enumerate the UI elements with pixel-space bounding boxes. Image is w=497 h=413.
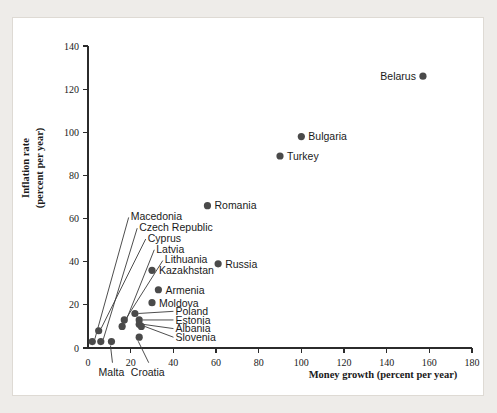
marker-bulgaria bbox=[298, 133, 305, 140]
leader-cyprus bbox=[101, 239, 145, 328]
label-romania: Romania bbox=[214, 199, 256, 211]
y-tick-label: 120 bbox=[64, 84, 79, 95]
marker-latvia bbox=[119, 323, 126, 330]
label-kazakhstan: Kazakhstan bbox=[159, 264, 214, 276]
y-axis-ticks: 020406080100120140 bbox=[64, 41, 88, 354]
label-malta: Malta bbox=[99, 366, 125, 378]
label-armenia: Armenia bbox=[165, 284, 204, 296]
x-axis-title: Money growth (percent per year) bbox=[309, 369, 458, 381]
y-tick-label: 40 bbox=[69, 256, 79, 267]
marker-moldova bbox=[148, 299, 155, 306]
leader-czech-republic bbox=[103, 228, 137, 339]
x-tick-label: 140 bbox=[379, 357, 394, 368]
scatter-plot: 020406080100120140 020406080100120140160… bbox=[13, 18, 483, 395]
y-tick-label: 140 bbox=[64, 41, 79, 52]
axis-titles: Inflation rate (percent per year) Money … bbox=[20, 127, 458, 381]
marker-turkey bbox=[276, 152, 283, 159]
marker-czech-republic bbox=[97, 338, 104, 345]
y-tick-label: 0 bbox=[74, 343, 79, 354]
x-tick-label: 120 bbox=[337, 357, 352, 368]
label-bulgaria: Bulgaria bbox=[308, 130, 347, 142]
leader-poland bbox=[138, 311, 173, 313]
marker-macedonia bbox=[89, 338, 96, 345]
y-axis-title-line2: (percent per year) bbox=[34, 127, 46, 208]
leader-croatia bbox=[138, 341, 149, 363]
x-tick-label: 80 bbox=[254, 357, 264, 368]
marker-lithuania bbox=[121, 316, 128, 323]
x-tick-label: 100 bbox=[294, 357, 309, 368]
data-point-labels: BelarusBulgariaTurkeyRomaniaRussiaKazakh… bbox=[99, 70, 416, 378]
label-turkey: Turkey bbox=[287, 150, 319, 162]
y-axis-title-line1: Inflation rate bbox=[20, 138, 31, 198]
x-tick-label: 0 bbox=[86, 357, 91, 368]
leader-albania bbox=[143, 324, 174, 328]
y-tick-label: 20 bbox=[69, 299, 79, 310]
y-tick-label: 60 bbox=[69, 213, 79, 224]
x-tick-label: 60 bbox=[211, 357, 221, 368]
label-croatia: Croatia bbox=[131, 366, 165, 378]
marker-malta bbox=[108, 338, 115, 345]
y-tick-label: 80 bbox=[69, 170, 79, 181]
marker-poland bbox=[131, 310, 138, 317]
y-tick-label: 100 bbox=[64, 127, 79, 138]
plot-panel: 020406080100120140 020406080100120140160… bbox=[13, 18, 483, 395]
marker-kazakhstan bbox=[148, 267, 155, 274]
marker-croatia bbox=[136, 334, 143, 341]
label-slovenia: Slovenia bbox=[175, 331, 215, 343]
marker-armenia bbox=[155, 286, 162, 293]
x-tick-label: 40 bbox=[168, 357, 178, 368]
label-lithuania: Lithuania bbox=[165, 253, 208, 265]
marker-slovenia bbox=[138, 323, 145, 330]
x-tick-label: 180 bbox=[465, 357, 480, 368]
marker-belarus bbox=[419, 73, 426, 80]
data-markers bbox=[89, 73, 427, 346]
x-tick-label: 160 bbox=[422, 357, 437, 368]
label-belarus: Belarus bbox=[380, 70, 416, 82]
marker-cyprus bbox=[95, 327, 102, 334]
marker-russia bbox=[215, 260, 222, 267]
figure-page: 020406080100120140 020406080100120140160… bbox=[0, 0, 497, 413]
marker-romania bbox=[204, 202, 211, 209]
label-russia: Russia bbox=[225, 258, 257, 270]
